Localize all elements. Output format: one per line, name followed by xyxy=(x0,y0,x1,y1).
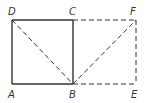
label-a: A xyxy=(7,89,15,100)
segment-db xyxy=(12,20,73,84)
label-b: B xyxy=(69,89,76,100)
label-c: C xyxy=(69,6,76,17)
segment-bf xyxy=(73,20,136,84)
label-e: E xyxy=(131,89,138,100)
geometry-diagram: D C F A B E xyxy=(0,0,146,103)
dashed-lines xyxy=(12,20,136,84)
label-f: F xyxy=(130,6,136,17)
label-d: D xyxy=(8,6,16,17)
